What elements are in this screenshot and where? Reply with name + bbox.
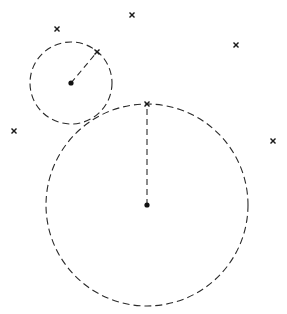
- center-dot-icon: [144, 202, 149, 207]
- x-marker-icon: [55, 27, 60, 32]
- x-marker-icon: [234, 43, 239, 48]
- center-dot-icon: [68, 80, 73, 85]
- diagram-canvas: [0, 0, 287, 314]
- x-marker-icon: [95, 50, 100, 55]
- x-marker-icon: [271, 139, 276, 144]
- circles-layer: [30, 42, 248, 306]
- markers-layer: [12, 13, 276, 144]
- radius-lines-layer: [71, 52, 147, 205]
- x-marker-icon: [12, 129, 17, 134]
- radius-line-small: [71, 52, 97, 83]
- x-marker-icon: [130, 13, 135, 18]
